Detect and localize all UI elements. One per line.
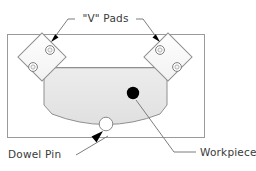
fixture-diagram: "V" Pads Dowel Pin Workpiece bbox=[0, 0, 256, 171]
diagram-canvas: "V" Pads Dowel Pin Workpiece bbox=[0, 0, 256, 171]
v-pad-left-hole-upper-inner bbox=[48, 48, 52, 52]
dowel-pin bbox=[99, 117, 113, 131]
label-workpiece: Workpiece bbox=[200, 146, 256, 158]
label-v-pads: "V" Pads bbox=[82, 12, 128, 24]
label-dowel-pin: Dowel Pin bbox=[8, 148, 61, 160]
workpiece bbox=[44, 68, 167, 125]
workpiece-center-dot bbox=[127, 87, 139, 99]
v-pad-right-hole-lower-inner bbox=[175, 65, 179, 69]
v-pad-left-hole-lower-inner bbox=[31, 65, 35, 69]
v-pad-right-hole-upper-inner bbox=[158, 48, 162, 52]
